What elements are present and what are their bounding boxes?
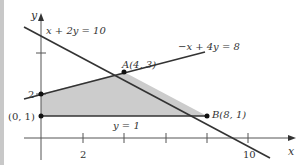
label-line-x-plus-2y: x + 2y = 10 <box>46 25 106 36</box>
label-line-y-eq-1: y = 1 <box>112 120 140 131</box>
y-tick-label-2: 2 <box>28 89 34 100</box>
diagram-frame: y x 2 10 2 x + 2y = 10 −x + 4y = 8 y = 1… <box>0 0 304 165</box>
x-tick-label-2: 2 <box>80 149 86 160</box>
label-line-neg-x-plus-4y: −x + 4y = 8 <box>178 41 240 52</box>
lp-diagram: y x 2 10 2 x + 2y = 10 −x + 4y = 8 y = 1… <box>0 0 304 165</box>
feasible-region <box>41 72 207 116</box>
point-0-2 <box>39 92 44 97</box>
y-axis-arrow-icon <box>38 13 44 21</box>
label-point-b: B(8, 1) <box>211 109 246 120</box>
y-axis-label: y <box>30 9 38 22</box>
x-axis-label: x <box>288 145 295 158</box>
point-0-1 <box>39 114 44 119</box>
label-point-0-1: (0, 1) <box>8 111 35 122</box>
point-a <box>122 70 127 75</box>
left-border <box>0 0 4 165</box>
point-b <box>205 114 210 119</box>
x-tick-label-10: 10 <box>243 149 256 160</box>
label-point-a: A(4, 3) <box>121 59 156 70</box>
x-axis-arrow-icon <box>288 135 296 141</box>
